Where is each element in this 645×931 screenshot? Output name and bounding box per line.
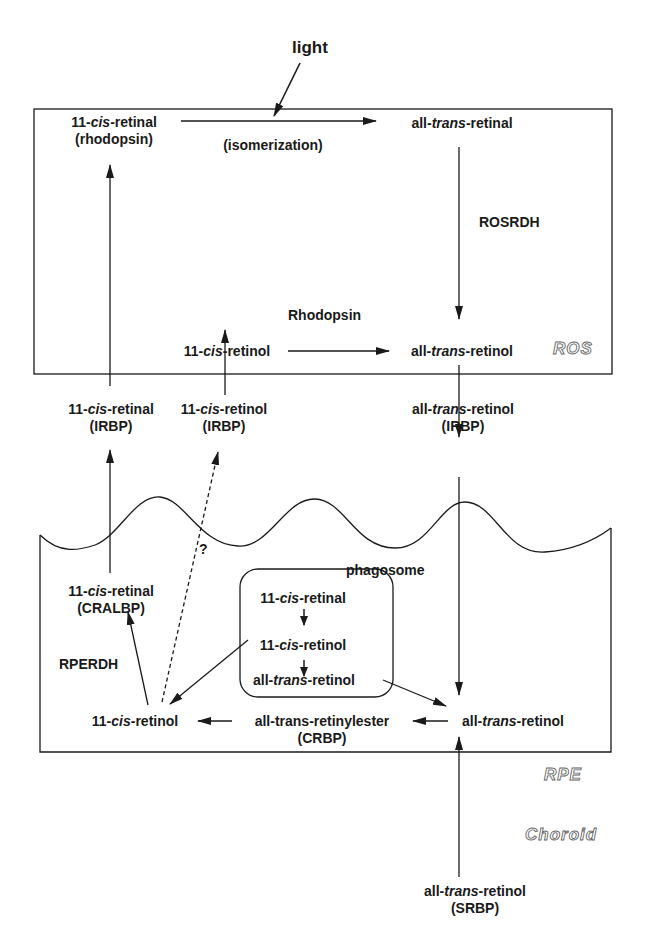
trans-retinol-irbp: all-trans-retinol (IRBP) (412, 401, 514, 435)
suffix: -retinal (299, 590, 346, 606)
isomer-italic: cis (200, 401, 219, 417)
cis-retinal-cralbp: 11-cis-retinal (CRALBP) (68, 583, 154, 617)
carrier: (IRBP) (68, 418, 154, 435)
ros-compartment (34, 109, 612, 374)
isomer-italic: cis (280, 590, 299, 606)
suffix: -retinal (466, 115, 513, 131)
isomer-italic: cis (203, 343, 222, 359)
prefix: all- (424, 883, 444, 899)
isomer-italic: trans (432, 115, 466, 131)
phagosome-all-trans-retinol: all-trans-retinol (253, 672, 355, 689)
suffix: -retinol (466, 343, 513, 359)
carrier: (CRALBP) (68, 600, 154, 617)
isomer-italic: cis (111, 713, 130, 729)
suffix: -retinol (131, 713, 178, 729)
cis-retinal-rhodopsin: 11-cis-retinal (rhodopsin) (71, 114, 157, 148)
isomerization-label: (isomerization) (223, 137, 323, 154)
isomer-italic: cis (91, 114, 110, 130)
prefix: 11- (71, 114, 90, 130)
suffix: -retinol (517, 713, 564, 729)
isomer-italic: trans (431, 343, 465, 359)
phagosome-11-cis-retinal: 11-cis-retinal (260, 590, 346, 607)
prefix: all- (462, 713, 482, 729)
suffix: -retinal (110, 114, 157, 130)
choroid-region-label: Choroid (525, 825, 597, 845)
rpe-all-trans-retinol: all-trans-retinol (462, 713, 564, 730)
prefix: 11- (184, 343, 203, 359)
suffix: -retinal (107, 401, 154, 417)
prefix: 11- (260, 637, 279, 653)
rperdh-enzyme: RPERDH (59, 656, 118, 672)
suffix: -retinol (467, 401, 514, 417)
suffix: -retinol (220, 401, 267, 417)
prefix: 11- (181, 401, 200, 417)
carrier: (CRBP) (255, 730, 390, 747)
prefix: 11- (68, 401, 87, 417)
rpe-membrane-wave (40, 497, 611, 552)
suffix: -retinol (479, 883, 526, 899)
cis-retinol-irbp: 11-cis-retinol (IRBP) (181, 401, 267, 435)
prefix: 11- (260, 590, 279, 606)
isomer-italic: cis (88, 583, 107, 599)
carrier: (IRBP) (412, 418, 514, 435)
isomer-italic: cis (88, 401, 107, 417)
suffix: -retinal (107, 583, 154, 599)
prefix: all- (411, 343, 431, 359)
isomer-italic: trans (273, 672, 307, 688)
suffix: -retinol (223, 343, 270, 359)
ros-all-trans-retinol: all-trans-retinol (411, 343, 513, 360)
carrier: (rhodopsin) (71, 131, 157, 148)
carrier: (SRBP) (424, 900, 526, 917)
prefix: all- (412, 401, 432, 417)
rhodopsin-label: Rhodopsin (288, 307, 361, 323)
isomer-italic: trans (482, 713, 516, 729)
rosrdh-enzyme: ROSRDH (479, 214, 540, 230)
suffix: -retinol (308, 672, 355, 688)
prefix: all- (411, 115, 431, 131)
ros-11-cis-retinol: 11-cis-retinol (184, 343, 270, 360)
isomer-italic: cis (279, 637, 298, 653)
trans-retinol-srbp: all-trans-retinol (SRBP) (424, 883, 526, 917)
rpe-11-cis-retinol: 11-cis-retinol (92, 713, 178, 730)
ros-region-label: ROS (553, 339, 593, 359)
unknown-pathway-question-mark: ? (199, 541, 208, 557)
prefix: 11- (68, 583, 87, 599)
retinylester-label: all-trans-retinylester (255, 713, 390, 730)
prefix: all- (253, 672, 273, 688)
isomer-italic: trans (444, 883, 478, 899)
carrier: (IRBP) (181, 418, 267, 435)
light-label: light (292, 38, 328, 58)
all-trans-retinal: all-trans-retinal (411, 115, 512, 132)
retinylester-crbp: all-trans-retinylester (CRBP) (255, 713, 390, 747)
prefix: 11- (92, 713, 111, 729)
phagosome-11-cis-retinol: 11-cis-retinol (260, 637, 346, 654)
cis-retinal-irbp: 11-cis-retinal (IRBP) (68, 401, 154, 435)
phagosome-label: phagosome (346, 562, 425, 578)
suffix: -retinol (299, 637, 346, 653)
isomer-italic: trans (432, 401, 466, 417)
rpe-region-label: RPE (544, 765, 582, 785)
